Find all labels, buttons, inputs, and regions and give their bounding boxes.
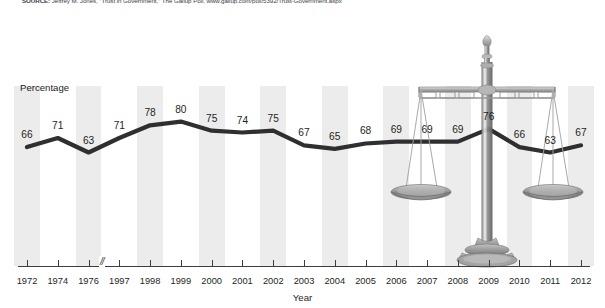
data-point-label: 63 [74,135,104,146]
data-point-label: 74 [227,115,257,126]
x-axis-tick [304,260,305,267]
data-point-label: 63 [535,135,565,146]
data-point-label: 76 [474,111,504,122]
data-point-label: 71 [43,120,73,131]
data-point-label: 80 [166,104,196,115]
source-text: Jeffrey M. Jones, "Trust in Government,"… [50,0,342,4]
x-axis-tick [396,260,397,267]
data-point-label: 69 [381,124,411,135]
x-axis-tick [550,260,551,267]
data-point-label: 67 [289,127,319,138]
x-axis-tick [489,260,490,267]
data-point-label: 75 [258,113,288,124]
x-axis-tick [58,260,59,267]
x-axis-tick [89,260,90,267]
data-point-label: 69 [412,124,442,135]
x-axis-tick [581,260,582,267]
x-axis-tick [335,260,336,267]
x-axis-tick [150,260,151,267]
x-axis-tick [427,260,428,267]
axis-break-marker: // [99,256,105,267]
x-axis-tick [519,260,520,267]
x-axis-tick-label: 2012 [561,276,601,286]
balance-scale-icon [0,10,605,308]
chart-plot-area: Percentage [0,10,605,308]
data-point-label: 75 [197,113,227,124]
data-point-label: 66 [504,129,534,140]
x-axis-label: Year [0,292,605,303]
data-point-label: 68 [351,125,381,136]
x-axis-tick [273,260,274,267]
data-point-label: 67 [566,127,596,138]
data-point-label: 69 [443,124,473,135]
x-axis-tick [366,260,367,267]
source-note: SOURCE: Jeffrey M. Jones, "Trust in Gove… [22,0,582,5]
data-point-label: 65 [320,131,350,142]
x-axis-tick [458,260,459,267]
data-point-label: 71 [104,120,134,131]
x-axis-tick [212,260,213,267]
x-axis-tick [119,260,120,267]
x-axis-tick [181,260,182,267]
data-point-label: 66 [12,129,42,140]
data-point-label: 78 [135,107,165,118]
x-axis-tick [27,260,28,267]
x-axis-tick [242,260,243,267]
source-label: SOURCE: [22,0,50,4]
